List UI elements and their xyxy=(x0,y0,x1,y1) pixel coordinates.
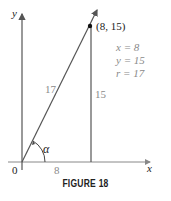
hypotenuse-ray xyxy=(22,10,97,162)
vertical-label: 15 xyxy=(95,89,106,100)
origin-label: 0 xyxy=(12,165,18,176)
x-axis-label: x xyxy=(147,163,152,174)
point-label: (8, 15) xyxy=(96,21,125,32)
r-value: r = 17 xyxy=(116,68,144,79)
horizontal-label: 8 xyxy=(54,165,60,176)
hypotenuse-label: 17 xyxy=(45,84,56,95)
y-axis-label: y xyxy=(12,8,17,19)
diagram-canvas xyxy=(0,0,171,201)
x-value: x = 8 xyxy=(116,42,139,53)
angle-label: α xyxy=(43,143,49,155)
figure-caption: FIGURE 18 xyxy=(13,178,158,189)
point-marker xyxy=(88,24,92,28)
y-value: y = 15 xyxy=(116,55,145,66)
